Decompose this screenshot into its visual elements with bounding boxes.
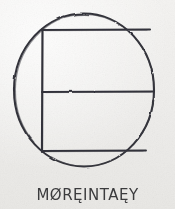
caption-text: MØRĘINTAĘY <box>36 185 138 204</box>
sketch-figure <box>0 0 175 178</box>
bottom-chord-overdraw <box>46 151 143 152</box>
paper-sheet: MØRĘINTAĘY <box>0 0 175 209</box>
left-vertical-line <box>42 29 43 152</box>
top-chord-overdraw <box>45 30 147 31</box>
middle-chord-overdraw <box>46 92 151 93</box>
caption: MØRĘINTAĘY <box>0 181 175 209</box>
circle-outline <box>14 14 154 167</box>
